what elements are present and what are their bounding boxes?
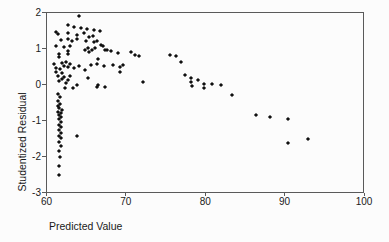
x-tick-label: 70	[111, 197, 141, 207]
y-tick-mark	[42, 84, 46, 85]
x-axis-label: Predicted Value	[49, 220, 122, 232]
scatter-plot-figure: 210-1-2-360708090100 Studentized Residua…	[0, 0, 389, 242]
x-tick-label: 80	[190, 197, 220, 207]
y-tick-label: 1	[0, 44, 41, 54]
y-tick-mark	[42, 48, 46, 49]
x-tick-label: 100	[349, 197, 379, 207]
x-tick-label: 90	[270, 197, 300, 207]
y-tick-mark	[42, 12, 46, 13]
y-tick-label: 2	[0, 8, 41, 18]
y-tick-mark	[42, 156, 46, 157]
x-tick-label: 60	[32, 197, 62, 207]
y-tick-mark	[42, 120, 46, 121]
y-axis-label: Studentized Residual	[16, 92, 28, 191]
y-tick-label: 0	[0, 80, 41, 90]
